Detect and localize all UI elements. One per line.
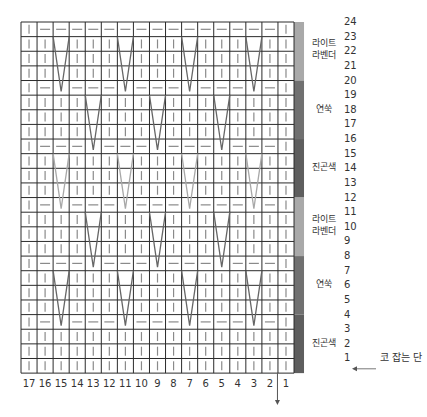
column-number-14: 14 <box>69 378 85 390</box>
row-number-6: 6 <box>344 279 364 291</box>
left-arrow-icon <box>352 366 357 371</box>
column-number-12: 12 <box>101 378 117 390</box>
row-number-21: 21 <box>344 60 364 72</box>
knitting-chart: 2423222120191817161514131211109876543211… <box>0 0 427 417</box>
row-number-24: 24 <box>344 16 364 28</box>
row-number-2: 2 <box>344 338 364 350</box>
row-number-11: 11 <box>344 206 364 218</box>
row-number-10: 10 <box>344 221 364 233</box>
color-band-label-1: 연쑥 <box>304 103 344 115</box>
row-number-23: 23 <box>344 31 364 43</box>
column-number-5: 5 <box>214 378 230 390</box>
column-number-2: 2 <box>262 378 278 390</box>
row-number-15: 15 <box>344 148 364 160</box>
column-number-6: 6 <box>198 378 214 390</box>
column-number-16: 16 <box>37 378 53 390</box>
column-number-1: 1 <box>278 378 294 390</box>
row-number-18: 18 <box>344 104 364 116</box>
cast-on-label: 코 잡는 단 <box>380 352 422 364</box>
row-number-16: 16 <box>344 133 364 145</box>
row-number-17: 17 <box>344 118 364 130</box>
column-number-15: 15 <box>53 378 69 390</box>
column-number-10: 10 <box>133 378 149 390</box>
color-band-label-3: 라이트라벤더 <box>304 213 344 237</box>
color-band-5 <box>294 315 304 374</box>
color-band-4 <box>294 256 304 315</box>
down-arrow-icon <box>275 400 280 405</box>
color-band-label-5: 진곤색 <box>304 337 344 349</box>
row-number-1: 1 <box>344 352 364 364</box>
color-band-label-0: 라이트라벤더 <box>304 37 344 61</box>
column-number-13: 13 <box>85 378 101 390</box>
row-number-12: 12 <box>344 192 364 204</box>
column-number-4: 4 <box>230 378 246 390</box>
color-band-label-4: 연쑥 <box>304 278 344 290</box>
row-number-5: 5 <box>344 294 364 306</box>
row-number-13: 13 <box>344 177 364 189</box>
column-number-11: 11 <box>117 378 133 390</box>
column-number-8: 8 <box>166 378 182 390</box>
color-band-0 <box>294 22 304 81</box>
row-number-14: 14 <box>344 162 364 174</box>
color-band-3 <box>294 198 304 257</box>
row-number-7: 7 <box>344 265 364 277</box>
column-number-3: 3 <box>246 378 262 390</box>
column-number-7: 7 <box>182 378 198 390</box>
row-number-8: 8 <box>344 250 364 262</box>
color-band-2 <box>294 139 304 198</box>
row-number-20: 20 <box>344 75 364 87</box>
row-number-9: 9 <box>344 235 364 247</box>
row-number-22: 22 <box>344 45 364 57</box>
row-number-3: 3 <box>344 323 364 335</box>
column-number-9: 9 <box>149 378 165 390</box>
column-number-17: 17 <box>21 378 37 390</box>
color-band-label-2: 진곤색 <box>304 161 344 173</box>
row-number-4: 4 <box>344 309 364 321</box>
row-number-19: 19 <box>344 89 364 101</box>
color-band-1 <box>294 81 304 140</box>
